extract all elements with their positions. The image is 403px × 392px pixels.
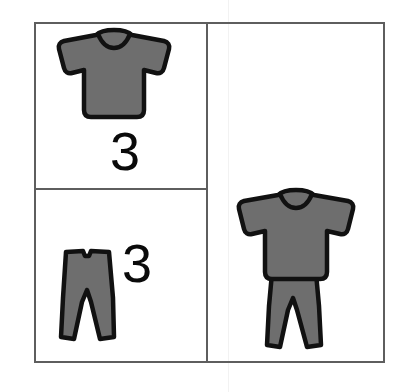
- outfit-result-cell[interactable]: [208, 24, 383, 361]
- t-shirt-icon: [56, 28, 172, 120]
- shirt-count-label: 3: [95, 120, 155, 182]
- outfit-icon: [236, 188, 356, 351]
- shirt-count-cell[interactable]: 3: [36, 24, 206, 188]
- pants-count-label: 3: [108, 232, 166, 294]
- worksheet-canvas: 3 3: [0, 0, 403, 392]
- pants-count-cell[interactable]: 3: [36, 190, 206, 361]
